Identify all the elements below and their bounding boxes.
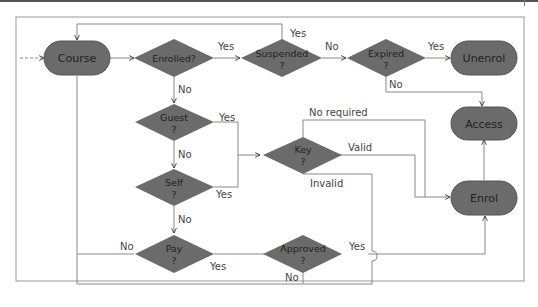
flowchart: Course Unenrol Access Enrol Enrolled? Su… <box>0 0 538 307</box>
course-label: Course <box>58 52 97 65</box>
enrol-label: Enrol <box>470 192 498 205</box>
edge-label-pay-no: No <box>120 241 134 252</box>
expired-label: Expired <box>368 48 404 59</box>
suspended-label: Suspended <box>256 48 309 59</box>
edge-label-enrolled-yes: Yes <box>217 41 234 52</box>
decision-key[interactable]: Key ? <box>263 137 342 174</box>
edge-label-expired-yes: Yes <box>427 41 444 52</box>
suspended-q: ? <box>279 60 284 71</box>
edge-label-key-no-required: No required <box>309 107 368 118</box>
edge-label-self-no: No <box>178 214 192 225</box>
edge-label-self-yes: Yes <box>215 189 232 200</box>
key-label: Key <box>294 144 312 155</box>
edge-label-approved-yes: Yes <box>348 241 365 252</box>
pay-label: Pay <box>166 243 183 254</box>
terminal-access[interactable]: Access <box>451 107 517 140</box>
edge-label-guest-yes: Yes <box>218 112 235 123</box>
decision-pay[interactable]: Pay ? <box>135 235 214 273</box>
approved-label: Approved <box>280 243 326 254</box>
unenrol-label: Unenrol <box>463 52 506 65</box>
terminal-course[interactable]: Course <box>44 41 110 75</box>
access-label: Access <box>465 118 503 131</box>
edge-label-enrolled-no: No <box>178 84 192 95</box>
edge-label-approved-no: No <box>285 272 299 283</box>
decision-enrolled[interactable]: Enrolled? <box>134 39 214 77</box>
decision-expired[interactable]: Expired ? <box>347 39 426 77</box>
expired-q: ? <box>383 60 388 71</box>
key-q: ? <box>300 156 305 167</box>
edge-label-guest-no: No <box>178 149 192 160</box>
edge-label-pay-yes: Yes <box>209 261 226 272</box>
decision-suspended[interactable]: Suspended ? <box>241 39 322 77</box>
edge-label-suspended-yes: Yes <box>289 28 306 39</box>
edge-label-key-valid: Valid <box>348 142 372 153</box>
enrolled-label: Enrolled? <box>152 53 196 64</box>
self-label: Self <box>165 177 184 188</box>
guest-label: Guest <box>160 112 188 123</box>
edge-label-expired-no: No <box>389 79 403 90</box>
self-q: ? <box>171 189 176 200</box>
decision-guest[interactable]: Guest ? <box>135 104 214 141</box>
guest-q: ? <box>171 124 176 135</box>
terminal-unenrol[interactable]: Unenrol <box>451 41 517 75</box>
pay-q: ? <box>171 255 176 266</box>
decision-self[interactable]: Self ? <box>135 169 214 206</box>
approved-q: ? <box>300 255 305 266</box>
terminal-enrol[interactable]: Enrol <box>451 181 517 215</box>
edge-label-suspended-no: No <box>325 41 339 52</box>
edge-label-key-invalid: Invalid <box>310 178 343 189</box>
decision-approved[interactable]: Approved ? <box>263 235 342 273</box>
